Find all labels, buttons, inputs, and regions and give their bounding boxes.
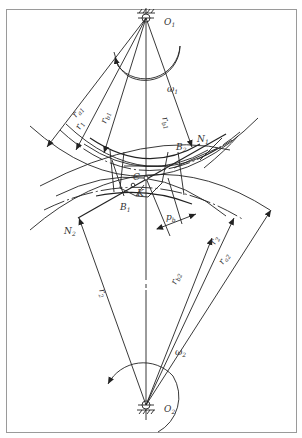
pitch-circle-2 xyxy=(44,187,244,220)
label-b2: B2 xyxy=(175,142,187,153)
label-rb2: rb2 xyxy=(169,271,184,286)
label-r1: r1 xyxy=(73,119,87,131)
label-omega1: ω1 xyxy=(167,84,178,95)
pb-dimension xyxy=(157,214,196,229)
r2-right-line xyxy=(146,218,234,405)
labels: O1 O2 ω1 ω2 C K N1 N2 B1 B2 pb ra1 r1 rb… xyxy=(63,17,232,415)
label-b1: B1 xyxy=(119,202,130,213)
rb2-line xyxy=(146,238,212,405)
label-n2: N2 xyxy=(63,226,76,237)
label-rb1-right: rb1 xyxy=(159,115,173,130)
label-ra2: ra2 xyxy=(216,251,232,267)
line-of-action xyxy=(78,134,226,218)
label-pb: pb xyxy=(166,212,176,223)
label-ra1: ra1 xyxy=(70,104,86,120)
omega1-arc xyxy=(114,46,180,79)
label-omega2: ω2 xyxy=(175,347,186,358)
addendum-circle-1 xyxy=(30,118,258,176)
label-c: C xyxy=(133,172,140,182)
label-rb1-left: rb1 xyxy=(98,110,112,125)
ra1-line xyxy=(47,18,146,147)
label-o2: O2 xyxy=(164,404,175,415)
label-n1: N1 xyxy=(196,134,209,145)
addendum-circle-2 xyxy=(30,174,270,230)
label-k: K xyxy=(136,188,145,198)
label-o1: O1 xyxy=(164,17,175,28)
gear-diagram: O1 O2 ω1 ω2 C K N1 N2 B1 B2 pb ra1 r1 rb… xyxy=(0,0,302,438)
